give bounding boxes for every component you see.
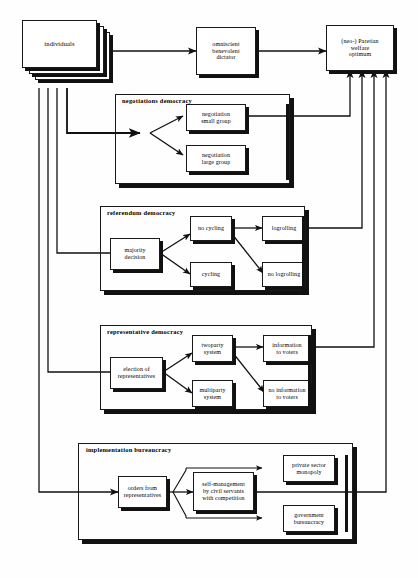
node-no-cycling[interactable]: no cycling: [190, 216, 232, 241]
dictator-line-3: dictator: [216, 54, 235, 60]
two-l2: system: [204, 349, 221, 355]
node-no-information-label: no information to voters: [266, 387, 308, 400]
node-individuals-label: individuals: [25, 40, 94, 47]
gov-l2: bureaucracy: [294, 519, 324, 525]
gov-l1: government: [294, 512, 324, 518]
optimum-line-1: (neo-) Paretian: [341, 38, 378, 44]
self-l3: with competition: [202, 495, 244, 501]
node-paretian-welfare-optimum[interactable]: (neo-) Paretian welfare optimum: [326, 25, 394, 71]
neg-small-l1: negotiation: [202, 111, 230, 117]
node-no-logrolling-label: no logrolling: [265, 271, 303, 278]
node-information-to-voters[interactable]: information to voters: [263, 335, 311, 362]
elec-l1: election of: [123, 366, 150, 372]
ord-l1: orders from: [128, 485, 157, 491]
dictator-line-2: benevolent: [212, 48, 239, 54]
self-l2: by civil servants: [203, 488, 244, 494]
node-twoparty-system[interactable]: twoparty system: [192, 335, 233, 362]
node-majority-decision[interactable]: majority decision: [110, 238, 160, 270]
node-majority-decision-label: majority decision: [113, 247, 157, 260]
node-no-logrolling[interactable]: no logrolling: [262, 262, 306, 287]
node-individuals[interactable]: individuals: [22, 20, 97, 68]
neg-large-l2: large group: [202, 159, 230, 165]
panel-representative-democracy-title: representative democracy: [105, 328, 185, 335]
panel-referendum-democracy-title: referendum democracy: [105, 209, 177, 216]
optimum-line-2: welfare: [351, 45, 370, 51]
node-dictator-label: omniscient benevolent dictator: [199, 41, 253, 61]
neg-large-l1: negotiation: [202, 152, 230, 158]
node-orders-label: orders from representatives: [121, 485, 164, 498]
multi-l1: multiparty: [200, 387, 226, 393]
priv-l1: private sector: [292, 462, 326, 468]
noinfo-l1: no information: [268, 387, 305, 393]
elec-l2: representatives: [118, 373, 155, 379]
node-multiparty-system[interactable]: multiparty system: [192, 380, 233, 407]
node-self-management-civil-servants[interactable]: self-management by civil servants with c…: [193, 472, 254, 511]
negotiations-inner-rail: [286, 104, 289, 180]
self-l1: self-management: [202, 481, 245, 487]
node-government-bureaucracy-label: government bureaucracy: [286, 512, 332, 525]
node-negotiation-large-group[interactable]: negotiation large group: [186, 145, 246, 172]
panel-implementation-bureaucracy-title: implementation bureaucracy: [84, 446, 173, 453]
node-multiparty-label: multiparty system: [195, 387, 230, 400]
info-l2: to voters: [276, 349, 298, 355]
node-logrolling-label: logrolling: [265, 225, 303, 232]
diagram-canvas: individuals omniscient benevolent dictat…: [0, 0, 418, 578]
node-optimum-label: (neo-) Paretian welfare optimum: [329, 38, 391, 58]
node-private-sector-monopoly[interactable]: private sector monopoly: [283, 455, 335, 482]
panel-negotiations-democracy-title: negotiations democracy: [120, 97, 194, 104]
node-cycling-label: cycling: [193, 271, 229, 278]
ord-l2: representatives: [124, 492, 161, 498]
node-private-sector-label: private sector monopoly: [286, 462, 332, 475]
node-negotiation-small-group[interactable]: negotiation small group: [186, 104, 246, 131]
neg-small-l2: small group: [201, 118, 231, 124]
representative-inner-rail: [308, 335, 311, 411]
node-self-management-label: self-management by civil servants with c…: [196, 481, 251, 501]
node-logrolling[interactable]: logrolling: [262, 216, 306, 241]
referendum-inner-rail: [302, 216, 305, 292]
node-election-of-representatives[interactable]: election of representatives: [110, 357, 163, 389]
node-government-bureaucracy[interactable]: government bureaucracy: [283, 505, 335, 532]
noinfo-l2: to voters: [276, 394, 298, 400]
priv-l2: monopoly: [296, 469, 321, 475]
node-orders-from-representatives[interactable]: orders from representatives: [118, 476, 167, 508]
node-negotiation-large-group-label: negotiation large group: [189, 152, 243, 165]
node-negotiation-small-group-label: negotiation small group: [189, 111, 243, 124]
node-election-label: election of representatives: [113, 366, 160, 379]
implementation-inner-rail: [345, 455, 348, 532]
multi-l2: system: [204, 394, 221, 400]
dictator-line-1: omniscient: [212, 41, 239, 47]
optimum-line-3: optimum: [349, 51, 371, 57]
node-information-label: information to voters: [266, 342, 308, 355]
maj-l1: majority: [124, 247, 145, 253]
node-no-cycling-label: no cycling: [193, 225, 229, 232]
node-omniscient-benevolent-dictator[interactable]: omniscient benevolent dictator: [196, 27, 256, 75]
two-l1: twoparty: [201, 342, 223, 348]
info-l1: information: [272, 342, 301, 348]
node-twoparty-label: twoparty system: [195, 342, 230, 355]
node-cycling[interactable]: cycling: [190, 262, 232, 287]
maj-l2: decision: [125, 254, 146, 260]
node-no-information-to-voters[interactable]: no information to voters: [263, 380, 311, 407]
